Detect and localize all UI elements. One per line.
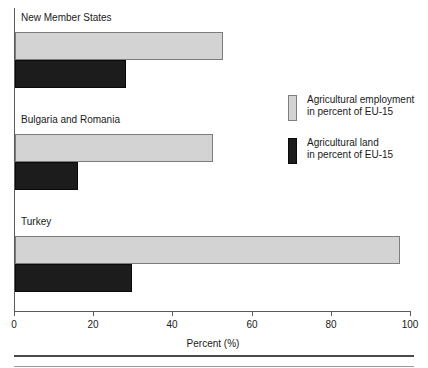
x-ticklabel-40: 40 <box>166 319 177 331</box>
x-tick-80 <box>331 311 332 316</box>
legend-swatch-land-icon <box>288 138 297 164</box>
footer-rule-top <box>14 355 414 357</box>
x-tick-40 <box>172 311 173 316</box>
legend-label-employment-line2: in percent of EU-15 <box>307 106 393 117</box>
x-tick-20 <box>93 311 94 316</box>
x-ticklabel-0: 0 <box>11 319 17 331</box>
chart-figure: 0 20 40 60 80 100 New Member States Bulg… <box>0 0 428 368</box>
bar-turkey-land <box>15 264 132 292</box>
x-ticklabel-80: 80 <box>325 319 336 331</box>
chart-legend: Agricultural employment in percent of EU… <box>288 94 428 180</box>
legend-label-land-line1: Agricultural land <box>307 137 379 148</box>
x-tick-100 <box>410 311 411 316</box>
bar-bulgaria-and-romania-land <box>15 162 78 190</box>
legend-entry-land: Agricultural land in percent of EU-15 <box>288 137 428 167</box>
legend-label-land-line2: in percent of EU-15 <box>307 149 393 160</box>
bar-bulgaria-and-romania-employment <box>15 134 213 162</box>
legend-label-employment: Agricultural employment in percent of EU… <box>307 94 414 118</box>
x-ticklabel-100: 100 <box>402 319 419 331</box>
x-ticklabel-60: 60 <box>246 319 257 331</box>
x-axis-line <box>14 311 411 312</box>
bar-new-member-states-employment <box>15 32 223 60</box>
legend-entry-employment: Agricultural employment in percent of EU… <box>288 94 428 124</box>
group-label-turkey: Turkey <box>21 216 51 228</box>
legend-label-land: Agricultural land in percent of EU-15 <box>307 137 393 161</box>
bar-new-member-states-land <box>15 60 126 88</box>
legend-swatch-employment-icon <box>288 95 297 121</box>
x-tick-60 <box>252 311 253 316</box>
group-label-new-member-states: New Member States <box>21 12 112 24</box>
group-label-bulgaria-and-romania: Bulgaria and Romania <box>21 114 120 126</box>
footer-rule-bottom <box>14 366 414 367</box>
legend-label-employment-line1: Agricultural employment <box>307 94 414 105</box>
bar-turkey-employment <box>15 236 400 264</box>
x-ticklabel-20: 20 <box>87 319 98 331</box>
x-axis-label: Percent (%) <box>14 338 412 349</box>
x-tick-0 <box>14 311 15 316</box>
